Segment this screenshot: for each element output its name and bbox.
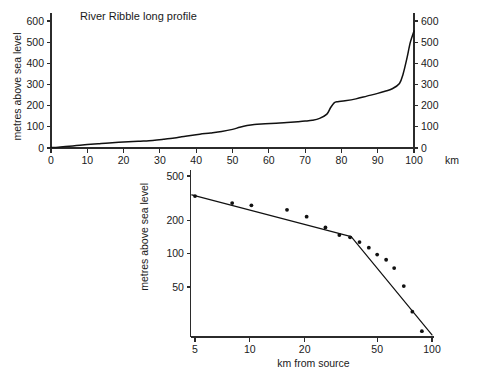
top-y-tick-label-right: 500 — [421, 36, 439, 48]
top-x-tick-label: 40 — [190, 154, 202, 166]
bottom-x-tick-label: 10 — [244, 343, 256, 355]
bottom-y-tick-label: 100 — [166, 247, 184, 259]
bottom-x-tick-label: 100 — [423, 343, 441, 355]
top-y-tick-label-left: 300 — [26, 78, 44, 90]
top-y-tick-label-left: 200 — [26, 99, 44, 111]
top-y-tick-label-right: 600 — [421, 15, 439, 27]
log-log-gradient-chart: 501002005005102050100metres above sea le… — [138, 170, 441, 369]
scatter-point — [250, 203, 254, 207]
top-x-tick-label: 50 — [227, 154, 239, 166]
top-y-tick-label-right: 0 — [421, 142, 427, 154]
top-x-tick-label: 0 — [48, 154, 54, 166]
fit-line-lower-reach — [351, 237, 432, 335]
scatter-point — [305, 215, 309, 219]
top-y-tick-label-left: 100 — [26, 120, 44, 132]
river-ribble-figure: 0100200300400500600010020030040050060001… — [0, 0, 480, 371]
top-chart-title: River Ribble long profile — [80, 10, 197, 22]
figure-root: 0100200300400500600010020030040050060001… — [0, 0, 480, 371]
bottom-y-axis-title: metres above sea level — [138, 183, 150, 291]
long-profile-curve — [51, 31, 414, 148]
top-y-tick-label-right: 200 — [421, 99, 439, 111]
top-y-tick-label-left: 500 — [26, 36, 44, 48]
bottom-y-tick-label: 500 — [166, 170, 184, 182]
top-x-axis-unit: km — [445, 154, 459, 166]
bottom-x-tick-label: 50 — [371, 343, 383, 355]
scatter-point — [358, 240, 362, 244]
scatter-point — [230, 201, 234, 205]
top-y-tick-label-left: 400 — [26, 57, 44, 69]
long-profile-chart: 0100200300400500600010020030040050060001… — [11, 10, 459, 166]
top-x-tick-label: 30 — [154, 154, 166, 166]
top-y-tick-label-right: 100 — [421, 120, 439, 132]
bottom-y-tick-label: 200 — [166, 214, 184, 226]
bottom-y-tick-label: 50 — [172, 281, 184, 293]
scatter-point — [392, 266, 396, 270]
scatter-point — [410, 310, 414, 314]
bottom-x-tick-label: 20 — [299, 343, 311, 355]
top-x-tick-label: 60 — [263, 154, 275, 166]
scatter-point — [384, 258, 388, 262]
scatter-point — [324, 226, 328, 230]
scatter-point — [285, 208, 289, 212]
top-y-tick-label-right: 400 — [421, 57, 439, 69]
top-y-tick-label-left: 600 — [26, 15, 44, 27]
scatter-point — [420, 329, 424, 333]
top-y-axis-title: metres above sea level — [11, 33, 23, 141]
scatter-point — [402, 284, 406, 288]
top-x-tick-label: 70 — [299, 154, 311, 166]
top-y-tick-label-right: 300 — [421, 78, 439, 90]
top-x-tick-label: 20 — [118, 154, 130, 166]
top-x-tick-label: 90 — [372, 154, 384, 166]
top-x-tick-label: 10 — [81, 154, 93, 166]
scatter-point — [367, 246, 371, 250]
bottom-x-tick-label: 5 — [192, 343, 198, 355]
bottom-x-axis-title: km from source — [277, 357, 350, 369]
fit-line-upper-reach — [192, 195, 351, 237]
top-y-tick-label-left: 0 — [38, 142, 44, 154]
scatter-point — [337, 233, 341, 237]
top-x-tick-label: 80 — [336, 154, 348, 166]
scatter-point — [375, 253, 379, 257]
scatter-point — [193, 194, 197, 198]
scatter-point — [348, 235, 352, 239]
top-x-tick-label: 100 — [405, 154, 423, 166]
